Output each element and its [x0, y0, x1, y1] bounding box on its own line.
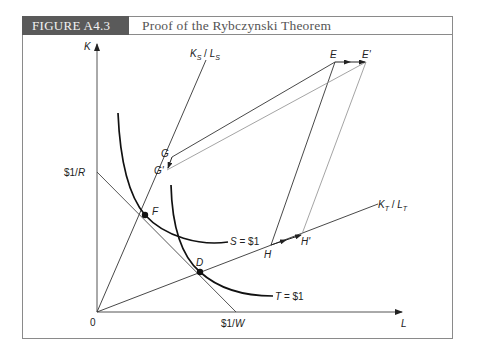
s-isoquant-label: S = $1 — [230, 236, 260, 247]
t-ray — [97, 204, 378, 312]
s-isoquant — [118, 113, 228, 243]
origin-label: 0 — [90, 317, 96, 328]
point-f — [142, 212, 148, 218]
y-intercept-label: $1/R — [64, 167, 85, 178]
h-to-e-line — [271, 62, 335, 245]
label-h: H — [264, 249, 272, 260]
h-shift-arrow — [271, 240, 286, 245]
label-d: D — [196, 257, 203, 268]
label-g-prime: G' — [154, 165, 165, 176]
label-g: G — [161, 148, 169, 159]
label-h-prime: H' — [301, 236, 311, 247]
s-ray-label: KS / LS — [190, 48, 220, 61]
s-ray — [97, 60, 206, 312]
point-d — [197, 269, 203, 275]
label-e: E — [330, 49, 337, 60]
gprime-to-eprime-line — [167, 62, 366, 170]
h-shift-arrow-2 — [286, 235, 301, 240]
hprime-to-eprime-line — [302, 62, 366, 234]
isocost-line — [97, 172, 236, 312]
rybczynski-diagram: K L 0 $1/R $1/W KS / LS KT / LT S = $1 T… — [0, 0, 480, 360]
label-f: F — [152, 206, 159, 217]
x-intercept-label: $1/W — [221, 318, 246, 329]
y-axis-label: K — [84, 41, 92, 52]
label-e-prime: E' — [362, 49, 372, 60]
g-to-e-line — [172, 62, 335, 157]
t-ray-label: KT / LT — [378, 199, 408, 212]
x-axis-label: L — [401, 318, 407, 329]
t-isoquant-label: T = $1 — [275, 291, 304, 302]
